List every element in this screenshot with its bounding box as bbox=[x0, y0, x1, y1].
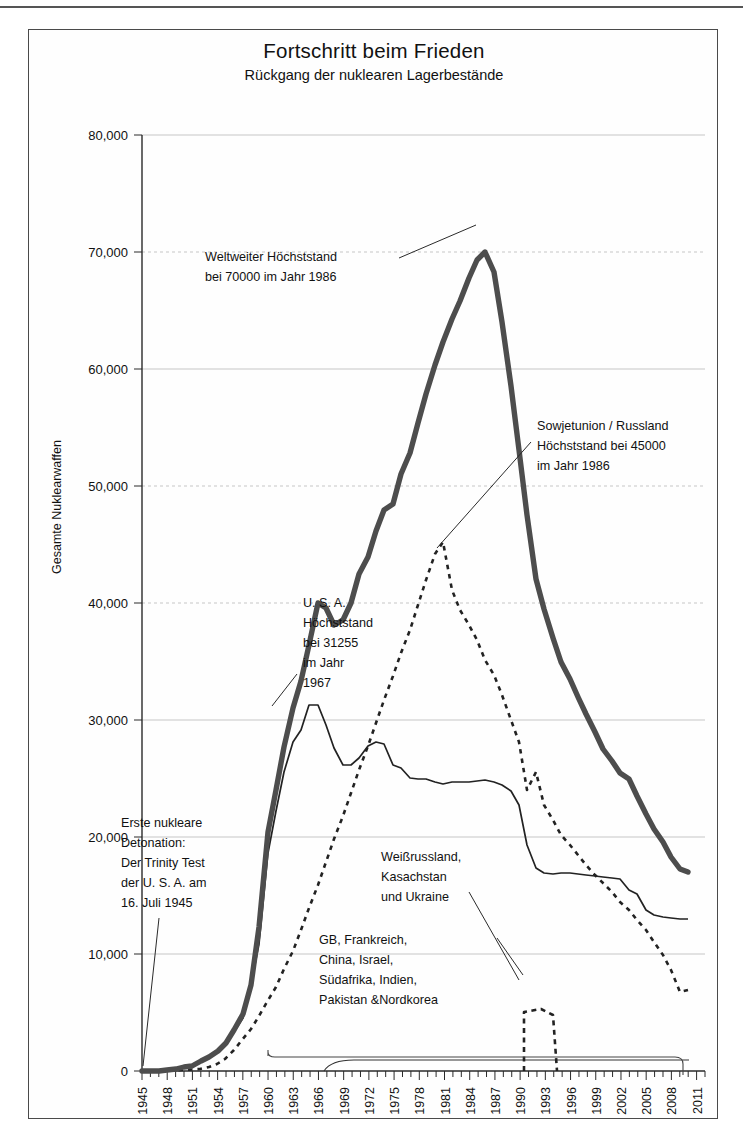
annotation-world-peak-line-1: Weltweiter Höchststand bbox=[205, 250, 337, 264]
annotation-bku-line-3: und Ukraine bbox=[381, 890, 449, 904]
chart-plot-area: 80,000 70,000 60,000 50,000 40,000 30,00… bbox=[29, 30, 719, 1120]
annotation-others-line-3: Südafrika, Indien, bbox=[319, 973, 417, 987]
series-usa bbox=[142, 705, 688, 1071]
y-tick-60000: 60,000 bbox=[88, 362, 128, 377]
series-other-countries bbox=[324, 1060, 689, 1071]
x-tick-label-1954: 1954 bbox=[212, 1087, 226, 1115]
x-tick-label-1957: 1957 bbox=[237, 1087, 251, 1115]
annotation-usa-peak-line-1: U. S. A. bbox=[303, 596, 346, 610]
annotation-world-peak-line-2: bei 70000 im Jahr 1986 bbox=[205, 270, 337, 284]
annotation-bku-line-2: Kasachstan bbox=[381, 870, 447, 884]
x-tick-label-1963: 1963 bbox=[287, 1087, 301, 1115]
x-tick-label-1993: 1993 bbox=[539, 1087, 553, 1115]
annotation-trinity-line-5: 16. Juli 1945 bbox=[121, 896, 192, 910]
annotation-usa-peak-line-4: im Jahr bbox=[303, 656, 344, 670]
x-tick-label-1972: 1972 bbox=[363, 1087, 377, 1115]
annotation-ussr-peak: Sowjetunion / Russland Höchststand bei 4… bbox=[437, 419, 669, 548]
y-tick-0: 0 bbox=[121, 1064, 128, 1079]
x-tick-label-1990: 1990 bbox=[514, 1087, 528, 1115]
annotation-others-line-2: China, Israel, bbox=[319, 953, 393, 967]
annotation-trinity-line-4: der U. S. A. am bbox=[121, 876, 206, 890]
x-tick-label-1969: 1969 bbox=[338, 1087, 352, 1115]
x-tick-label-1951: 1951 bbox=[186, 1087, 200, 1115]
series-belarus-kazakhstan-ukraine bbox=[524, 1009, 557, 1071]
x-tick-label-1948: 1948 bbox=[161, 1087, 175, 1115]
series-world-total bbox=[142, 252, 688, 1071]
annotation-ussr-peak-line-3: im Jahr 1986 bbox=[537, 459, 610, 473]
x-tick-label-2008: 2008 bbox=[665, 1087, 679, 1115]
y-tick-30000: 30,000 bbox=[88, 713, 128, 728]
annotation-bku-line-1: Weißrussland, bbox=[381, 850, 461, 864]
annotation-world-peak: Weltweiter Höchststand bei 70000 im Jahr… bbox=[205, 225, 476, 284]
x-tick-label-1966: 1966 bbox=[312, 1087, 326, 1115]
x-tick-label-2011: 2011 bbox=[691, 1087, 705, 1114]
x-axis: 1945194819511954195719601963196619691972… bbox=[136, 1071, 705, 1115]
annotation-usa-peak-line-5: 1967 bbox=[303, 676, 331, 690]
y-tick-80000: 80,000 bbox=[88, 128, 128, 143]
y-tick-70000: 70,000 bbox=[88, 245, 128, 260]
x-tick-label-1981: 1981 bbox=[439, 1087, 453, 1115]
annotation-trinity-line-1: Erste nukleare bbox=[121, 816, 202, 830]
x-tick-label-2002: 2002 bbox=[615, 1087, 629, 1115]
annotation-belarus-kazakhstan-ukraine: Weißrussland, Kasachstan und Ukraine bbox=[381, 850, 519, 980]
y-axis: 80,000 70,000 60,000 50,000 40,000 30,00… bbox=[88, 128, 142, 1079]
annotation-usa-peak-line-3: bei 31255 bbox=[303, 636, 358, 650]
x-tick-label-1999: 1999 bbox=[590, 1087, 604, 1115]
x-tick-label-1945: 1945 bbox=[136, 1087, 150, 1115]
x-tick-label-1975: 1975 bbox=[388, 1087, 402, 1115]
annotation-ussr-peak-line-1: Sowjetunion / Russland bbox=[537, 419, 669, 433]
x-tick-label-1978: 1978 bbox=[413, 1087, 427, 1115]
annotation-trinity: Erste nukleare Detonation: Der Trinity T… bbox=[121, 816, 206, 1066]
chart-figure-frame: Fortschritt beim Frieden Rückgang der nu… bbox=[28, 29, 718, 1119]
series-ussr-russia bbox=[150, 542, 688, 1071]
annotation-ussr-peak-line-2: Höchststand bei 45000 bbox=[537, 439, 666, 453]
annotation-usa-peak-line-2: Höchststand bbox=[303, 616, 373, 630]
x-tick-label-2005: 2005 bbox=[640, 1087, 654, 1115]
y-tick-50000: 50,000 bbox=[88, 479, 128, 494]
y-tick-40000: 40,000 bbox=[88, 596, 128, 611]
annotation-trinity-line-2: Detonation: bbox=[121, 836, 185, 850]
annotation-others-line-4: Pakistan &Nordkorea bbox=[319, 993, 438, 1007]
y-tick-10000: 10,000 bbox=[88, 947, 128, 962]
annotation-trinity-line-3: Der Trinity Test bbox=[121, 856, 205, 870]
annotation-usa-peak: U. S. A. Höchststand bei 31255 im Jahr 1… bbox=[272, 596, 373, 706]
x-tick-label-1960: 1960 bbox=[262, 1087, 276, 1115]
annotation-others-line-1: GB, Frankreich, bbox=[319, 933, 407, 947]
page-top-rule bbox=[0, 6, 743, 8]
x-tick-label-1984: 1984 bbox=[464, 1087, 478, 1115]
x-tick-label-1996: 1996 bbox=[565, 1087, 579, 1115]
annotation-other-countries: GB, Frankreich, China, Israel, Südafrika… bbox=[319, 933, 523, 1007]
x-tick-label-1987: 1987 bbox=[489, 1087, 503, 1115]
